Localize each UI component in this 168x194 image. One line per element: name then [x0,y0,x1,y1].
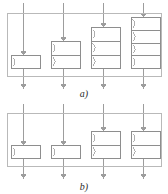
panel-a: a) [8,3,162,100]
panel-b-flows [21,104,147,179]
figure-container: a) [0,0,168,194]
box-a1 [12,56,41,69]
box-a3 [92,28,121,69]
box-b3 [92,132,121,159]
box-b4 [132,132,161,159]
panel-b-label: b) [80,181,89,193]
diagram-canvas: a) [0,0,168,194]
box-a2 [52,42,81,69]
box-b1 [12,146,41,159]
box-b2 [52,146,81,159]
box-a4 [132,18,161,69]
panel-b: b) [8,104,162,193]
panel-a-label: a) [80,88,89,100]
flow-b2 [61,104,67,179]
flow-b1 [21,104,27,179]
